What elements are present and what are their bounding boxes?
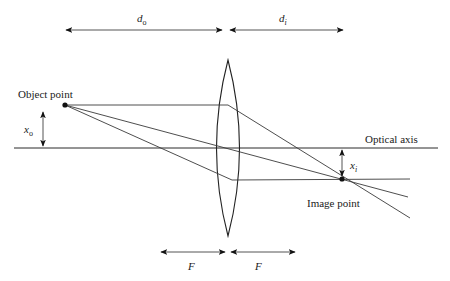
lens-ray-diagram: do di Optical axis Object point xo Image…: [0, 0, 450, 281]
image-distance-label: di: [279, 12, 287, 27]
focal-left-label: F: [187, 260, 195, 272]
focal-right-label: F: [254, 260, 262, 272]
image-point-dot: [339, 176, 344, 181]
image-distance-dimension: di: [230, 12, 343, 30]
focal-length-right: F: [231, 252, 295, 272]
optical-axis-label: Optical axis: [365, 133, 418, 145]
object-point-label: Object point: [18, 88, 73, 100]
object-height-label: xo: [23, 123, 33, 138]
image-point-label: Image point: [307, 197, 360, 209]
image-height-label: xi: [349, 159, 357, 174]
focal-length-left: F: [161, 252, 225, 272]
object-distance-label: do: [137, 12, 147, 27]
object-distance-dimension: do: [66, 12, 222, 30]
object-point-dot: [62, 102, 67, 107]
chief-ray: [65, 105, 408, 197]
